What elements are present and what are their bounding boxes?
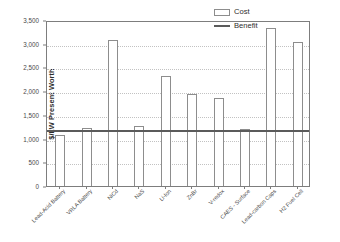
y-axis-ticks: 05001,0001,5002,0002,5003,0003,500: [0, 0, 44, 242]
legend-item-cost: Cost: [214, 6, 250, 18]
legend-label-cost: Cost: [234, 8, 250, 16]
chart-container: $/kW Present Worth 05001,0001,5002,0002,…: [0, 0, 340, 242]
bar: [214, 98, 224, 186]
x-tick-label: ZnBr: [186, 188, 199, 201]
x-tick-mark: [218, 186, 219, 189]
x-tick-label: H2 Fuel Cell: [278, 188, 304, 214]
legend-label-benefit: Benefit: [234, 22, 258, 30]
y-tick-label: 2,500: [23, 65, 39, 71]
x-tick-mark: [86, 186, 87, 189]
x-tick-label: V-redox: [207, 188, 225, 206]
x-tick-label: NiCd: [106, 188, 119, 201]
plot-area: [46, 21, 310, 187]
bar: [266, 28, 276, 186]
bar: [293, 42, 303, 186]
y-tick-label: 3,000: [23, 42, 39, 48]
y-tick-label: 1,500: [23, 113, 39, 119]
y-tick-label: 1,000: [23, 136, 39, 142]
y-tick-label: 500: [28, 160, 39, 166]
x-tick-label: Li-Ion: [158, 188, 172, 202]
y-tick-label: 0: [35, 184, 39, 190]
legend-item-benefit: Benefit: [214, 20, 258, 32]
bar: [108, 40, 118, 186]
benefit-line-series: [47, 130, 309, 132]
legend-swatch-bar-icon: [214, 9, 230, 16]
x-tick-label: VRLA Battery: [65, 188, 93, 216]
bar: [240, 129, 250, 186]
bar: [82, 128, 92, 186]
x-axis-labels: Lead-Acid BatteryVRLA BatteryNiCdNaSLi-I…: [46, 188, 310, 242]
bar: [187, 94, 197, 186]
chart-legend: Cost Benefit: [214, 6, 306, 36]
bar: [55, 135, 65, 186]
bar: [134, 126, 144, 186]
x-tick-label: NaS: [134, 188, 146, 200]
legend-swatch-line-icon: [214, 25, 230, 28]
y-tick-label: 3,500: [23, 18, 39, 24]
y-tick-label: 2,000: [23, 89, 39, 95]
